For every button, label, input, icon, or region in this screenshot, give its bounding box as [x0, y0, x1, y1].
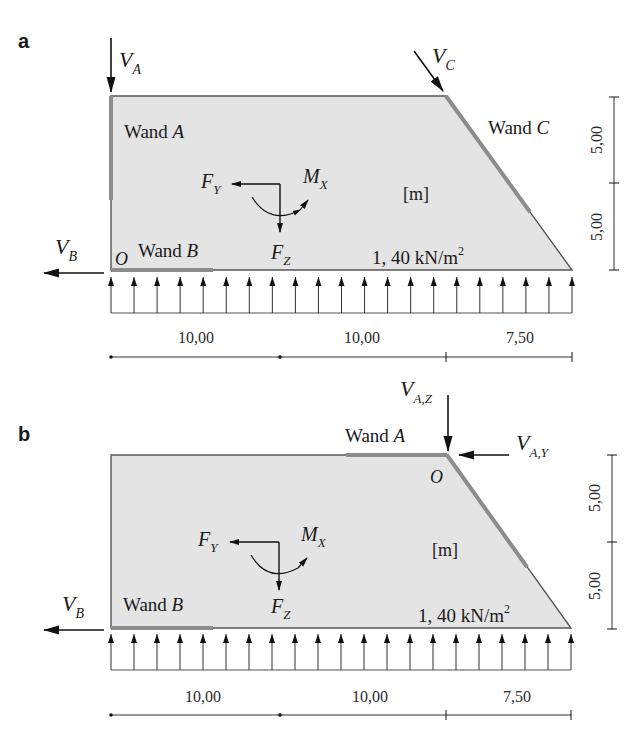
load-arrowhead: [246, 277, 252, 286]
wall-c-label: Wand C: [488, 117, 550, 138]
dim-v-2-b: 5,00: [586, 572, 603, 600]
force-vay-label: VA,Y: [516, 430, 550, 460]
unit-label-a: [m]: [403, 184, 429, 204]
load-arrowhead: [292, 634, 298, 643]
origin-label-b: O: [430, 467, 443, 487]
load-arrowhead: [177, 277, 183, 286]
dim-v-1: 5,00: [588, 126, 605, 154]
load-arrowhead: [154, 277, 160, 286]
origin-label-a: O: [115, 249, 128, 269]
load-arrowhead: [361, 634, 367, 643]
load-arrowhead: [177, 634, 183, 643]
dim-h-1-b: 10,00: [185, 688, 221, 705]
dim-h-2-b: 10,00: [352, 688, 388, 705]
wall-a-label: Wand A: [124, 121, 185, 142]
dim-h-2: 10,00: [344, 329, 380, 346]
load-arrowhead: [499, 634, 505, 643]
dimension-horizontal-a: 10,00 10,00 7,50: [109, 329, 572, 362]
load-arrowhead: [385, 277, 391, 286]
force-vaz-label: VA,Z: [400, 376, 433, 406]
load-arrowhead: [200, 634, 206, 643]
load-arrowhead: [454, 277, 460, 286]
load-arrowhead: [223, 277, 229, 286]
dimension-horizontal-b: 10,00 10,00 7,50: [109, 688, 571, 720]
load-arrowhead: [315, 634, 321, 643]
load-arrowhead: [269, 634, 275, 643]
load-arrowhead: [315, 277, 321, 286]
load-arrowhead: [523, 277, 529, 286]
load-arrowhead: [269, 277, 275, 286]
load-arrowhead: [362, 277, 368, 286]
dimension-vertical-b: 5,00 5,00: [586, 455, 617, 629]
load-arrowhead: [131, 277, 137, 286]
load-label-b: 1, 40 kN/m2: [418, 602, 510, 626]
dim-h-3-b: 7,50: [503, 688, 531, 705]
load-arrowhead: [546, 277, 552, 286]
diagram-canvas: a VA VC VB Wand A Wand B Wand C O [m] 1,: [0, 0, 642, 749]
load-arrowhead: [131, 634, 137, 643]
dimension-vertical-a: 5,00 5,00: [588, 97, 619, 270]
force-vc-label: VC: [432, 43, 455, 73]
load-arrowhead: [407, 634, 413, 643]
load-arrowhead: [477, 277, 483, 286]
load-arrowhead: [569, 277, 575, 286]
load-arrowhead: [545, 634, 551, 643]
load-arrowhead: [431, 277, 437, 286]
load-arrowhead: [453, 634, 459, 643]
panel-label-a: a: [18, 30, 30, 52]
load-arrowhead: [154, 634, 160, 643]
force-vb-label: VB: [55, 234, 77, 264]
load-arrowhead: [108, 277, 114, 286]
load-label-a: 1, 40 kN/m2: [372, 244, 464, 268]
panel-label-b: b: [18, 423, 30, 445]
distributed-load-a: [108, 277, 575, 313]
load-arrowhead: [568, 634, 574, 643]
dim-h-3: 7,50: [506, 329, 534, 346]
load-arrowhead: [292, 277, 298, 286]
force-va-label: VA: [119, 47, 141, 77]
load-arrowhead: [108, 634, 114, 643]
load-arrowhead: [338, 634, 344, 643]
wall-a-label-b: Wand A: [345, 425, 406, 446]
load-arrowhead: [522, 634, 528, 643]
load-arrowhead: [246, 634, 252, 643]
load-arrowhead: [408, 277, 414, 286]
wall-b-label-b: Wand B: [123, 594, 184, 615]
distributed-load-b: [108, 634, 574, 670]
dim-v-2: 5,00: [588, 213, 605, 241]
panel-b: b VA,Z VA,Y VB Wand A Wand B O [m] 1, 40…: [18, 376, 617, 720]
panel-a: a VA VC VB Wand A Wand B Wand C O [m] 1,: [18, 30, 619, 362]
load-arrowhead: [200, 277, 206, 286]
load-arrowhead: [339, 277, 345, 286]
dim-h-1: 10,00: [178, 329, 214, 346]
load-arrowhead: [384, 634, 390, 643]
dim-v-1-b: 5,00: [586, 484, 603, 512]
load-arrowhead: [223, 634, 229, 643]
load-arrowhead: [476, 634, 482, 643]
load-arrowhead: [430, 634, 436, 643]
wall-b-label: Wand B: [138, 240, 199, 261]
force-vb-label-b: VB: [62, 591, 84, 621]
load-arrowhead: [500, 277, 506, 286]
unit-label-b: [m]: [432, 540, 458, 560]
